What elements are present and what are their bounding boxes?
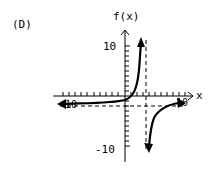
arrow-left-icon (57, 99, 66, 109)
graph (0, 0, 220, 169)
arrow-up-icon (137, 37, 145, 47)
arrow-down-icon (144, 143, 153, 153)
x-ticks (63, 92, 185, 96)
curve-left-branch (62, 44, 141, 104)
axes (53, 30, 193, 162)
curve-right-branch (149, 103, 180, 146)
